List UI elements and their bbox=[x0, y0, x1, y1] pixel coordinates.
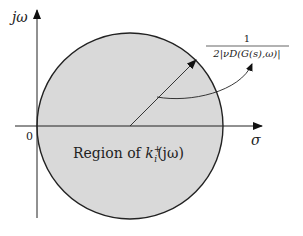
radius-fraction: 1 2|νD(G(s),ω)| bbox=[206, 33, 289, 60]
origin-label: 0 bbox=[26, 130, 33, 143]
sigma-label: σ bbox=[251, 132, 261, 148]
fraction-denominator: 2|νD(G(s),ω)| bbox=[212, 48, 280, 60]
jomega-label: jω bbox=[9, 9, 28, 25]
complex-plane-diagram: jω σ 0 Region of k+i(jω) 1 2|νD(G(s),ω)| bbox=[0, 0, 303, 236]
fraction-numerator: 1 bbox=[244, 33, 250, 44]
